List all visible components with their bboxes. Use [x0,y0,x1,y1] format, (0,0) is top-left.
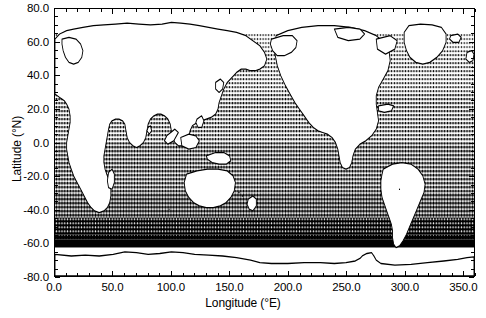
x-axis-title: Longitude (°E) [0,296,486,310]
x-tick-bottom [452,273,453,276]
x-tick-bottom [311,273,312,276]
x-tick-top [428,9,429,12]
y-tick-left [55,100,58,101]
y-tick-left [55,260,58,261]
y-tick-label: -40.0 [23,204,49,216]
y-tick-left [55,92,58,93]
x-tick-bottom [276,273,277,276]
y-tick-right [469,277,474,278]
y-tick-right [471,100,474,101]
x-tick-top [194,9,195,12]
y-tick-right [471,201,474,202]
y-tick-right [471,235,474,236]
british-isles-landmass [466,51,474,63]
y-tick-label: 40.0 [27,69,49,81]
x-tick-bottom [124,273,125,276]
y-tick-left [55,58,58,59]
x-tick-top [475,9,476,12]
x-tick-bottom [253,273,254,276]
y-tick-left [55,176,60,177]
x-tick-bottom [393,273,394,276]
y-tick-right [471,92,474,93]
y-tick-left [55,50,58,51]
y-tick-right [471,151,474,152]
x-tick-top [218,9,219,12]
x-tick-label: 150.0 [215,281,243,293]
x-tick-top [276,9,277,12]
x-tick-top [440,9,441,12]
x-tick-bottom [54,271,55,276]
y-tick-right [469,109,474,110]
x-tick-bottom [417,273,418,276]
y-tick-label: -80.0 [23,271,49,283]
x-tick-top [417,9,418,12]
madagascar-landmass [107,169,114,189]
y-tick-left [55,277,60,278]
y-tick-label: 80.0 [27,2,49,14]
x-tick-top [183,9,184,12]
y-tick-right [471,50,474,51]
x-tick-top [381,9,382,12]
x-tick-top [136,9,137,12]
x-tick-top [148,9,149,12]
x-tick-bottom [346,271,347,276]
x-tick-top [323,9,324,12]
x-tick-top [89,9,90,12]
x-tick-bottom [370,273,371,276]
y-tick-left [55,117,58,118]
x-tick-top [101,9,102,12]
x-tick-bottom [136,273,137,276]
x-tick-bottom [323,273,324,276]
x-tick-bottom [183,273,184,276]
y-tick-right [469,42,474,43]
y-tick-left [55,227,58,228]
y-tick-left [55,218,58,219]
x-tick-bottom [475,273,476,276]
x-tick-bottom [101,273,102,276]
y-tick-right [469,176,474,177]
x-tick-top [288,9,289,14]
y-tick-label: 60.0 [27,36,49,48]
y-tick-left [55,33,58,34]
y-tick-left [55,210,60,211]
y-tick-label: 20.0 [27,103,49,115]
x-tick-bottom [171,271,172,276]
y-tick-label: -60.0 [23,237,49,249]
y-tick-right [471,126,474,127]
y-tick-left [55,269,58,270]
iceland-landmass [450,34,462,42]
x-tick-top [171,9,172,14]
y-tick-right [471,252,474,253]
y-tick-right [471,25,474,26]
x-tick-top [159,9,160,12]
x-tick-bottom [218,273,219,276]
x-tick-top [253,9,254,12]
x-tick-top [405,9,406,14]
y-tick-left [55,109,60,110]
y-tick-right [471,269,474,270]
y-tick-right [471,185,474,186]
x-tick-top [452,9,453,12]
y-tick-label: -20.0 [23,170,49,182]
y-tick-right [471,33,474,34]
y-tick-right [469,75,474,76]
x-tick-label: 250.0 [332,281,360,293]
y-tick-left [55,25,58,26]
x-tick-top [241,9,242,12]
x-tick-bottom [229,271,230,276]
x-tick-top [206,9,207,12]
y-tick-right [471,134,474,135]
y-tick-left [55,193,58,194]
x-tick-top [393,9,394,12]
x-tick-top [335,9,336,12]
caribbean-landmass [379,104,394,112]
x-tick-top [54,9,55,14]
x-tick-bottom [358,273,359,276]
x-tick-top [77,9,78,12]
indonesia-landmass [181,134,200,149]
x-tick-bottom [265,273,266,276]
x-tick-label: 50.0 [101,281,123,293]
y-tick-left [55,126,58,127]
plot-area [54,8,475,277]
x-tick-bottom [66,273,67,276]
